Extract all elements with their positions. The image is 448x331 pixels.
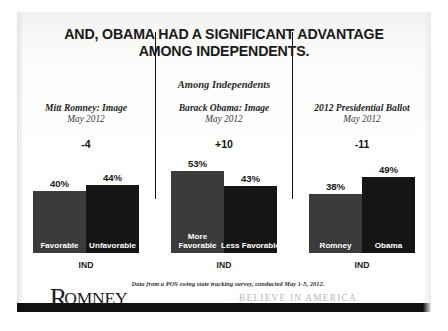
bar-chart: More Favorable 53% Less Favorable 43% IN… [155,160,293,272]
panel-net-score: +10 [155,138,293,150]
panel-date: May 2012 [155,113,293,125]
campaign-tagline: BELIEVE IN AMERICA [239,293,357,303]
bar: Obama [362,177,415,253]
bar-value-label: 38% [309,181,362,192]
bar: Favorable [33,191,86,253]
bar-value-label: 53% [171,158,224,169]
bar-chart: Favorable 40% Unfavorable 44% IND [17,160,155,272]
panel-title: 2012 Presidential Ballot [293,102,431,113]
bar-value-label: 43% [224,173,277,184]
bar-value-label: 49% [362,164,415,175]
bar: Romney [309,194,362,253]
plot-area: Romney 38% Obama 49% [293,160,431,253]
bar-group: More Favorable 53% [171,160,224,253]
plot-area: Favorable 40% Unfavorable 44% [17,160,155,253]
bar-group: Unfavorable 44% [86,160,139,253]
bar-group: Favorable 40% [33,160,86,253]
chart-panel-romney-image: Mitt Romney: Image May 2012 -4 Favorable… [17,102,155,287]
x-axis-label: IND [155,260,293,270]
title-line-1: AND, OBAMA HAD A SIGNIFICANT ADVANTAGE [29,26,419,43]
bar-group: Romney 38% [309,160,362,253]
page-title: AND, OBAMA HAD A SIGNIFICANT ADVANTAGE A… [29,26,419,60]
bar-category-label: Romney [306,241,365,250]
bar: Less Favorable [224,186,277,253]
slide-subtitle: Among Independents [17,79,431,90]
panel-title: Mitt Romney: Image [17,102,155,113]
title-line-2: AMONG INDEPENDENTS. [29,43,419,60]
slide-footer-bar [17,303,431,312]
panel-title: Barack Obama: Image [155,102,293,113]
panel-net-score: -4 [17,138,155,150]
bar-group: Less Favorable 43% [224,160,277,253]
x-axis-label: IND [293,260,431,270]
bar-value-label: 40% [33,178,86,189]
bar-group: Obama 49% [362,160,415,253]
bar-category-label: Unfavorable [83,241,142,250]
chart-panel-presidential-ballot: 2012 Presidential Ballot May 2012 -11 Ro… [293,102,431,287]
bar-chart: Romney 38% Obama 49% IND [293,160,431,272]
bar-category-label: Favorable [30,241,89,250]
plot-area: More Favorable 53% Less Favorable 43% [155,160,293,253]
panel-date: May 2012 [17,113,155,125]
bar-value-label: 44% [86,172,139,183]
bar: Unfavorable [86,185,139,253]
chart-panel-obama-image: Barack Obama: Image May 2012 +10 More Fa… [155,102,293,287]
presentation-slide: AND, OBAMA HAD A SIGNIFICANT ADVANTAGE A… [17,12,431,312]
bar-category-label: Obama [359,241,418,250]
x-axis-label: IND [17,260,155,270]
bar-category-label: More Favorable [168,232,227,250]
panel-net-score: -11 [293,138,431,150]
panel-date: May 2012 [293,113,431,125]
bar-category-label: Less Favorable [221,241,280,250]
bar: More Favorable [171,171,224,253]
